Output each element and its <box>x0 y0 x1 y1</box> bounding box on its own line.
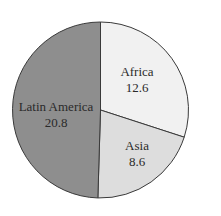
pie-chart: Africa 12.6 Asia 8.6 Latin America 20.8 <box>0 0 221 216</box>
latin-america-value: 20.8 <box>45 115 68 130</box>
africa-value: 12.6 <box>126 80 149 95</box>
africa-label: Africa <box>120 64 153 79</box>
latin-america-label: Latin America <box>19 99 94 114</box>
asia-value: 8.6 <box>129 154 146 169</box>
asia-label: Asia <box>125 138 149 153</box>
